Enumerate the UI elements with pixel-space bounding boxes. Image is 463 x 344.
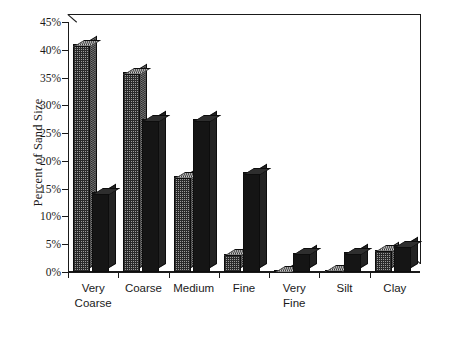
x-axis-label-line: Clay bbox=[360, 281, 430, 296]
bar-very-fine-series-2 bbox=[293, 253, 310, 272]
x-tick-mark bbox=[370, 272, 371, 278]
bar-front-face bbox=[243, 172, 260, 272]
bar-front-face bbox=[73, 44, 90, 272]
y-tick-label: 5% bbox=[0, 238, 68, 250]
y-tick-label: 10% bbox=[0, 210, 68, 222]
x-axis-label-clay: Clay bbox=[360, 281, 430, 296]
bar-front-face bbox=[123, 72, 140, 272]
bar-front-face bbox=[92, 192, 109, 272]
x-tick-mark bbox=[219, 272, 220, 278]
y-tick-label: 45% bbox=[0, 16, 68, 28]
bar-medium-series-1 bbox=[174, 176, 191, 272]
plot-back-wall-right bbox=[420, 14, 421, 264]
bar-clay-series-2 bbox=[394, 245, 411, 272]
bar-front-face bbox=[193, 119, 210, 272]
y-tick-mark bbox=[62, 105, 68, 106]
x-tick-mark bbox=[319, 272, 320, 278]
x-tick-mark bbox=[118, 272, 119, 278]
bar-side-face bbox=[210, 111, 217, 268]
bar-front-face bbox=[375, 250, 392, 272]
bar-coarse-series-1 bbox=[123, 72, 140, 272]
y-tick-label: 35% bbox=[0, 72, 68, 84]
y-tick-mark bbox=[62, 50, 68, 51]
bar-front-face bbox=[293, 253, 310, 272]
y-tick-label: 0% bbox=[0, 266, 68, 278]
bar-front-face bbox=[142, 119, 159, 272]
x-axis-baseline bbox=[68, 272, 420, 273]
x-tick-mark bbox=[269, 272, 270, 278]
sand-size-bar-chart: Percent of Sand Size 0%5%10%15%20%25%30%… bbox=[0, 0, 463, 344]
y-tick-mark bbox=[62, 216, 68, 217]
bar-very-coarse-series-1 bbox=[73, 44, 90, 272]
y-tick-label: 40% bbox=[0, 44, 68, 56]
y-tick-mark bbox=[62, 244, 68, 245]
bar-front-face bbox=[394, 245, 411, 272]
x-tick-mark bbox=[68, 272, 69, 278]
bar-side-face bbox=[260, 164, 267, 268]
y-tick-label: 25% bbox=[0, 127, 68, 139]
bar-fine-series-2 bbox=[243, 172, 260, 272]
y-tick-label: 15% bbox=[0, 183, 68, 195]
y-tick-mark bbox=[62, 189, 68, 190]
bar-front-face bbox=[224, 254, 241, 272]
bar-front-face bbox=[344, 252, 361, 272]
bar-side-face bbox=[109, 184, 116, 268]
bar-silt-series-2 bbox=[344, 252, 361, 272]
y-tick-label: 20% bbox=[0, 155, 68, 167]
x-axis-label-line: Coarse bbox=[58, 296, 128, 311]
bar-side-face bbox=[159, 111, 166, 268]
plot-back-wall-top bbox=[68, 14, 420, 15]
bar-very-coarse-series-2 bbox=[92, 192, 109, 272]
bar-coarse-series-2 bbox=[142, 119, 159, 272]
y-tick-mark bbox=[62, 161, 68, 162]
bar-medium-series-2 bbox=[193, 119, 210, 272]
bar-fine-series-1 bbox=[224, 254, 241, 272]
y-tick-mark bbox=[62, 78, 68, 79]
plot-depth-line-bottom-right bbox=[420, 264, 429, 273]
x-tick-mark bbox=[169, 272, 170, 278]
y-tick-mark bbox=[62, 22, 68, 23]
y-tick-mark bbox=[62, 133, 68, 134]
bar-front-face bbox=[174, 176, 191, 272]
bar-clay-series-1 bbox=[375, 250, 392, 272]
y-tick-label: 30% bbox=[0, 99, 68, 111]
x-axis-label-line: Fine bbox=[259, 296, 329, 311]
